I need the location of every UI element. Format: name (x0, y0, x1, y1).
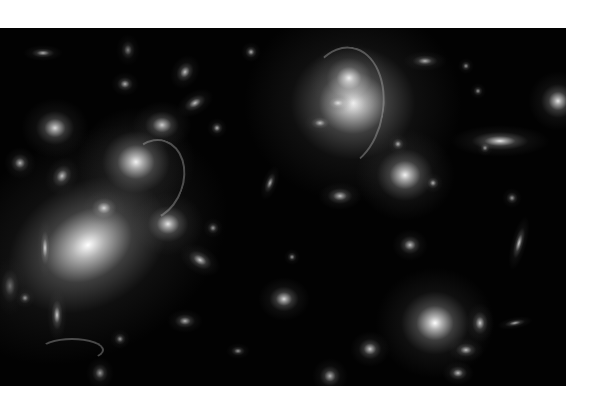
galaxy (528, 71, 566, 131)
lensing-arc (108, 130, 197, 231)
galaxy (207, 118, 227, 138)
galaxy (423, 173, 443, 193)
galaxy (0, 75, 273, 386)
galaxy (450, 125, 550, 157)
galaxy (477, 140, 493, 156)
galaxy (132, 192, 204, 256)
lensing-arc (40, 338, 104, 362)
galaxy (256, 163, 283, 202)
galaxy (388, 134, 408, 154)
galaxy (0, 256, 26, 316)
galaxy (442, 361, 474, 385)
galaxy (466, 303, 494, 343)
galaxy (116, 34, 140, 66)
galaxy (86, 357, 114, 386)
galaxy (284, 249, 300, 265)
galaxy (403, 51, 447, 71)
galaxy (38, 151, 86, 202)
galaxy-cluster-photo (0, 28, 566, 386)
galaxy (448, 338, 484, 362)
galaxy (504, 214, 534, 272)
galaxy (312, 358, 348, 386)
galaxy (502, 188, 522, 208)
galaxy (470, 83, 486, 99)
galaxy (458, 58, 474, 74)
galaxy (350, 331, 390, 367)
galaxy (47, 289, 67, 341)
galaxy (164, 49, 206, 94)
galaxy (172, 83, 219, 124)
galaxy (4, 147, 36, 179)
galaxy (304, 113, 336, 133)
lensing-arc (290, 40, 394, 177)
galaxy (82, 190, 126, 226)
galaxy (496, 314, 534, 332)
galaxy (258, 277, 310, 321)
galaxy (15, 288, 35, 308)
galaxy (243, 28, 463, 203)
galaxy (392, 229, 428, 261)
galaxy (203, 218, 223, 238)
galaxy (309, 42, 389, 114)
galaxy (76, 107, 196, 217)
galaxy (23, 45, 63, 61)
galaxy (167, 309, 203, 333)
galaxy (174, 237, 226, 283)
galaxy (375, 267, 495, 379)
galaxy (318, 182, 362, 210)
galaxy (111, 72, 139, 96)
galaxy (132, 101, 192, 149)
galaxy (322, 93, 354, 113)
galaxy (21, 98, 89, 158)
galaxy (226, 343, 250, 359)
galaxy (355, 129, 455, 221)
galaxy (110, 329, 130, 349)
galaxy (241, 42, 261, 62)
galaxy (37, 218, 53, 278)
